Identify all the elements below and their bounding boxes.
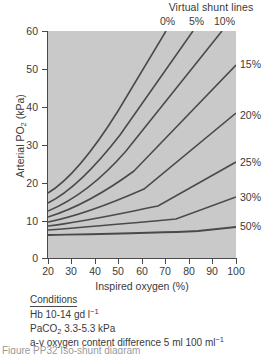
x-tick-mark-100 <box>236 259 237 264</box>
y-axis-title: Arterial PO2 (kPa) <box>14 66 26 206</box>
condition-paco2-subscript: 2 <box>57 327 61 336</box>
condition-paco2-value: 3.3-5.3 kPa <box>61 323 115 334</box>
iso-shunt-diagram-figure: Virtual shunt lines 0% 5% 10% 60 5 <box>0 0 272 354</box>
y-axis-title-text: Arterial PO <box>14 126 26 177</box>
curve-label-10pct: 10% <box>214 15 235 27</box>
curve-0pct <box>48 31 166 193</box>
y-tick-mark-60 <box>42 31 47 32</box>
y-axis-title-unit: (kPa) <box>14 94 26 122</box>
y-axis-line <box>47 31 48 259</box>
curve-30pct <box>48 197 236 230</box>
curve-15pct <box>48 65 236 217</box>
x-tick-mark-40 <box>95 259 96 264</box>
curve-5pct <box>48 31 193 203</box>
x-tick-mark-90 <box>212 259 213 264</box>
condition-hb: Hb 10-14 gd l−1 <box>30 308 270 322</box>
y-tick-mark-30 <box>42 145 47 146</box>
condition-hb-exponent: −1 <box>90 307 99 316</box>
x-tick-mark-70 <box>165 259 166 264</box>
y-tick-mark-40 <box>42 107 47 108</box>
x-tick-mark-80 <box>189 259 190 264</box>
condition-paco2-label: PaCO <box>30 323 57 334</box>
y-tick-mark-0 <box>42 258 47 259</box>
y-tick-label-10: 10 <box>0 216 38 226</box>
y-tick-mark-10 <box>42 221 47 222</box>
curve-label-30pct: 30% <box>240 192 261 203</box>
curve-label-25pct: 25% <box>240 157 261 168</box>
figure-caption: Figure PP32 Iso-shunt diagram <box>2 345 140 354</box>
legend-title: Virtual shunt lines <box>150 1 272 13</box>
curve-label-50pct: 50% <box>240 221 261 232</box>
y-tick-mark-20 <box>42 183 47 184</box>
curve-label-15pct: 15% <box>240 59 261 70</box>
shunt-curves <box>48 31 236 258</box>
curve-label-20pct: 20% <box>240 110 261 121</box>
y-tick-mark-50 <box>42 69 47 70</box>
x-tick-mark-20 <box>48 259 49 264</box>
y-axis-title-subscript: 2 <box>19 122 28 126</box>
curve-label-0pct: 0% <box>160 15 175 27</box>
condition-paco2: PaCO2 3.3-5.3 kPa <box>30 322 270 336</box>
x-tick-mark-50 <box>118 259 119 264</box>
y-tick-label-60: 60 <box>0 26 38 36</box>
y-tick-label-0: 0 <box>0 253 38 263</box>
x-tick-mark-60 <box>142 259 143 264</box>
condition-av-difference-exponent: −1 <box>215 335 224 344</box>
curve-25pct <box>48 162 236 226</box>
x-axis-title: Inspired oxygen (%) <box>48 280 236 292</box>
conditions-heading: Conditions <box>30 293 77 307</box>
x-tick-mark-30 <box>71 259 72 264</box>
plot-area <box>48 31 236 258</box>
condition-hb-label: Hb 10-14 gd l <box>30 309 90 320</box>
curve-label-5pct: 5% <box>189 15 204 27</box>
conditions-block: Conditions Hb 10-14 gd l−1 PaCO2 3.3-5.3… <box>30 293 270 350</box>
x-tick-label-100: 100 <box>221 266 251 277</box>
